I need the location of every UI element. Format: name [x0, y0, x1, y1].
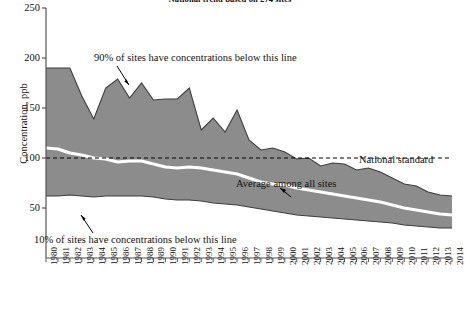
- x-tick-label: 2011: [420, 247, 429, 265]
- annotation-p10: 10% of sites have concentrations below t…: [34, 234, 237, 245]
- x-tick-label: 2001: [301, 247, 310, 265]
- y-tick-label: 150: [6, 103, 40, 114]
- annotation-mean: Average among all sites: [236, 178, 336, 189]
- annotation-p90: 90% of sites have concentrations below t…: [94, 52, 297, 63]
- x-tick-label: 1980: [50, 247, 59, 265]
- x-tick-label: 1983: [86, 247, 95, 265]
- x-tick-label: 2000: [289, 247, 298, 265]
- x-tick-label: 1985: [110, 247, 119, 265]
- x-tick-label: 2005: [349, 247, 358, 265]
- x-tick-label: 1996: [241, 247, 250, 265]
- y-tick-label: 100: [6, 153, 40, 164]
- x-tick-label: 1995: [229, 247, 238, 265]
- y-tick-label: 200: [6, 53, 40, 64]
- leader-p90-arrow: [124, 79, 129, 85]
- x-tick-label: 2002: [313, 247, 322, 265]
- x-tick-label: 2014: [456, 247, 465, 265]
- x-tick-label: 1982: [74, 247, 83, 265]
- x-tick-label: 1989: [157, 247, 166, 265]
- x-tick-label: 2008: [384, 247, 393, 265]
- x-tick-label: 2003: [325, 247, 334, 265]
- x-tick-label: 2007: [372, 247, 381, 265]
- x-tick-label: 1987: [134, 247, 143, 265]
- x-tick-label: 1986: [122, 247, 131, 265]
- x-tick-label: 1984: [98, 247, 107, 265]
- x-tick-label: 1992: [193, 247, 202, 265]
- y-tick-label: 250: [6, 3, 40, 14]
- annotation-national-standard: National standard: [359, 154, 433, 165]
- x-tick-label: 1998: [265, 247, 274, 265]
- x-tick-label: 1999: [277, 247, 286, 265]
- x-tick-label: 1997: [253, 247, 262, 265]
- x-tick-label: 1991: [181, 247, 190, 265]
- leader-p10-arrow: [81, 215, 86, 221]
- x-tick-label: 1993: [205, 247, 214, 265]
- x-tick-label: 1990: [169, 247, 178, 265]
- x-tick-label: 2013: [444, 247, 453, 265]
- x-tick-label: 1994: [217, 247, 226, 265]
- y-tick-label: 50: [6, 203, 40, 214]
- x-tick-label: 2010: [408, 247, 417, 265]
- x-tick-label: 1981: [62, 247, 71, 265]
- x-tick-label: 2009: [396, 247, 405, 265]
- x-tick-label: 2012: [432, 247, 441, 265]
- x-tick-label: 2006: [360, 247, 369, 265]
- x-tick-label: 1988: [146, 247, 155, 265]
- x-tick-label: 2004: [337, 247, 346, 265]
